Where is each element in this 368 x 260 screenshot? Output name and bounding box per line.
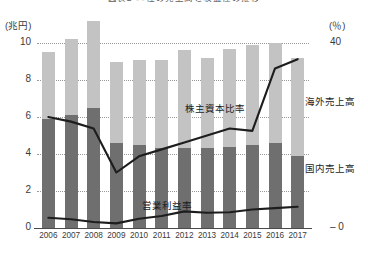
annotation-equity-ratio: 株主資本比率 bbox=[185, 101, 245, 115]
line-株主資本比率 bbox=[48, 59, 297, 172]
right-axis-unit: (％) bbox=[329, 18, 345, 32]
left-tick-6: 6 bbox=[5, 110, 31, 121]
left-tick-2: 2 bbox=[5, 184, 31, 195]
chart-figure: 図表2 ○○社の売上高と収益性の推移 (兆円) (％) 1086420 40– … bbox=[0, 0, 368, 260]
left-tick-4: 4 bbox=[5, 147, 31, 158]
x-axis-line bbox=[34, 228, 312, 229]
right-tick-40: 40 bbox=[330, 36, 360, 47]
left-tick-10: 10 bbox=[5, 36, 31, 47]
left-tick-0: 0 bbox=[5, 221, 31, 232]
annotation-overseas-sales: 海外売上高 bbox=[305, 94, 355, 108]
annotation-operating-margin: 営業利益率 bbox=[142, 198, 192, 212]
left-axis-unit: (兆円) bbox=[5, 18, 31, 32]
left-tick-8: 8 bbox=[5, 73, 31, 84]
x-label-2017: 2017 bbox=[283, 231, 313, 240]
annotation-domestic-sales: 国内売上高 bbox=[305, 161, 355, 175]
chart-title: 図表2 ○○社の売上高と収益性の推移 bbox=[0, 0, 368, 2]
right-tick-0: – 0 bbox=[330, 221, 360, 232]
